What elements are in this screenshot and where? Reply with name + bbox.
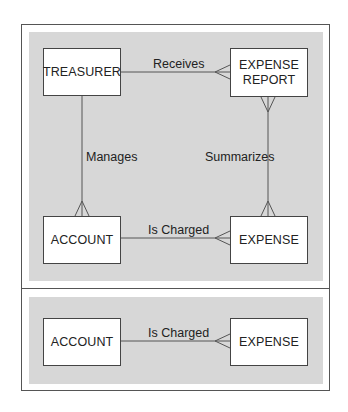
relationship-label-is-charged: Is Charged	[148, 223, 209, 237]
entity-label-line2: REPORT	[243, 73, 295, 88]
entity-label: ACCOUNT	[51, 233, 114, 248]
entity-label: ACCOUNT	[51, 335, 114, 350]
entity-label: EXPENSE	[239, 233, 299, 248]
entity-expense-detail: EXPENSE	[230, 318, 308, 366]
relationship-label-summarizes: Summarizes	[205, 150, 274, 164]
relationship-label-receives: Receives	[153, 57, 204, 71]
entity-treasurer: TREASURER	[43, 48, 121, 96]
entity-account: ACCOUNT	[43, 216, 121, 264]
entity-label: TREASURER	[43, 65, 121, 80]
entity-account-detail: ACCOUNT	[43, 318, 121, 366]
relationship-label-is-charged-detail: Is Charged	[148, 326, 209, 340]
relationship-label-manages: Manages	[86, 150, 137, 164]
entity-label-line1: EXPENSE	[239, 58, 299, 73]
entity-expense: EXPENSE	[230, 216, 308, 264]
entity-expense-report: EXPENSE REPORT	[230, 48, 308, 97]
entity-label: EXPENSE	[239, 335, 299, 350]
